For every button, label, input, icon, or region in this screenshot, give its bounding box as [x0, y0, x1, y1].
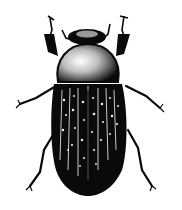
- pronotum: [57, 44, 118, 82]
- head-highlight: [76, 31, 98, 38]
- beetle-illustration: Black-and-white stippled drawing of a be…: [0, 0, 182, 210]
- right-antenna-club: [116, 34, 130, 56]
- left-antenna-club: [44, 34, 58, 56]
- beetle-drawing: [0, 0, 182, 210]
